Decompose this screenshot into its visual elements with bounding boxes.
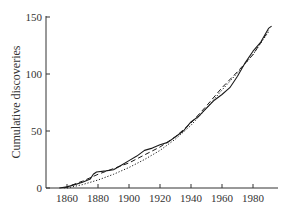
x-tick-label: 1920 (149, 192, 172, 204)
x-tick-label: 1860 (56, 192, 79, 204)
x-ticks: 1860188019001920194019601980 (56, 184, 265, 204)
series-model-1 (64, 31, 269, 188)
y-tick-label: 0 (37, 182, 43, 194)
y-tick-label: 50 (31, 125, 43, 137)
plot-lines (59, 26, 271, 188)
x-tick-label: 1900 (118, 192, 141, 204)
series-observed (59, 26, 271, 188)
y-tick-label: 150 (26, 11, 43, 23)
y-tick-label: 100 (26, 68, 43, 80)
x-tick-label: 1960 (211, 192, 234, 204)
y-axis-title: Cumulative discoveries (9, 45, 23, 158)
x-tick-label: 1880 (87, 192, 110, 204)
series-model-2 (67, 32, 269, 188)
chart: 050100150 1860188019001920194019601980 C… (0, 0, 287, 218)
x-tick-label: 1940 (180, 192, 203, 204)
x-tick-label: 1980 (242, 192, 265, 204)
